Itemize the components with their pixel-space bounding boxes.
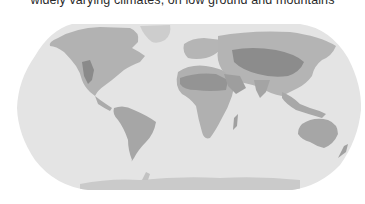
world-climate-map (0, 0, 365, 204)
